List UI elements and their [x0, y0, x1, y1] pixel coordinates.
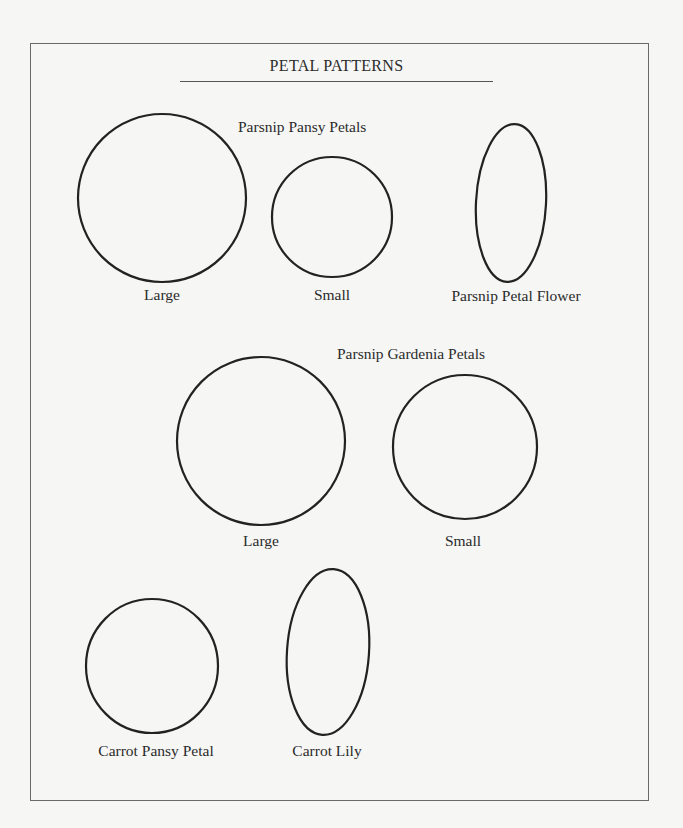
parsnip-gardenia-large-label: Large: [243, 532, 279, 550]
carrot-pansy-petal-circle: [86, 599, 218, 733]
parsnip-petal-flower-oval: [472, 122, 550, 283]
carrot-lily-oval: [281, 566, 374, 737]
carrot-pansy-petal-label: Carrot Pansy Petal: [98, 742, 213, 760]
parsnip-pansy-large-label: Large: [144, 286, 180, 304]
parsnip-pansy-heading: Parsnip Pansy Petals: [238, 118, 366, 136]
parsnip-petal-flower-label: Parsnip Petal Flower: [451, 287, 580, 305]
parsnip-gardenia-large-circle: [177, 357, 345, 525]
parsnip-pansy-small-label: Small: [314, 286, 350, 304]
parsnip-gardenia-small-label: Small: [445, 532, 481, 550]
parsnip-pansy-small-circle: [272, 157, 392, 277]
parsnip-pansy-large-circle: [78, 114, 246, 282]
carrot-lily-label: Carrot Lily: [292, 742, 361, 760]
parsnip-gardenia-heading: Parsnip Gardenia Petals: [337, 345, 485, 363]
parsnip-gardenia-small-circle: [393, 375, 537, 519]
